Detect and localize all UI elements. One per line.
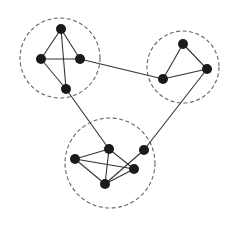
cluster-graph-diagram — [0, 0, 233, 226]
node-b1 — [178, 39, 188, 49]
edge-b1-b2 — [163, 44, 183, 79]
edge-a1-a3 — [61, 29, 80, 59]
node-d5 — [100, 179, 110, 189]
node-d1 — [70, 154, 80, 164]
edge-d1-d2 — [75, 149, 109, 159]
node-d2 — [104, 144, 114, 154]
edge-a2-a4 — [41, 59, 66, 89]
node-b3 — [202, 64, 212, 74]
edge-layer — [41, 29, 207, 184]
node-a1 — [56, 24, 66, 34]
edge-d1-d5 — [75, 159, 105, 184]
node-d3 — [139, 145, 149, 155]
edge-d1-d4 — [75, 159, 134, 169]
cluster-boundary-c3 — [65, 118, 155, 208]
edge-d2-d5 — [105, 149, 109, 184]
edge-b1-b3 — [183, 44, 207, 69]
node-a4 — [61, 84, 71, 94]
node-a3 — [75, 54, 85, 64]
node-a2 — [36, 54, 46, 64]
node-d4 — [129, 164, 139, 174]
edge-a1-a2 — [41, 29, 61, 59]
edge-b3-d3 — [144, 69, 207, 150]
node-b2 — [158, 74, 168, 84]
edge-a3-b2 — [80, 59, 163, 79]
